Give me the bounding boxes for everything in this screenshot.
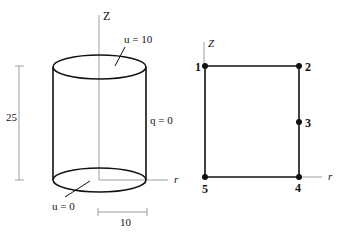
side-bc-label: q = 0 [150,114,173,126]
node-4-label: 4 [295,181,301,195]
node-3 [296,119,302,125]
z-axis-label-left: Z [103,9,110,23]
node-5 [202,174,208,180]
mesh-figure: Z r 1 2 3 4 5 [195,37,333,196]
diagram-canvas: Z r u = 10 q = 0 u = 0 25 10 Z [0,0,340,232]
cylinder-figure: Z r u = 10 q = 0 u = 0 25 10 [6,9,179,228]
bottom-bc-label: u = 0 [52,200,75,212]
cylinder-top-ellipse [53,55,146,79]
node-1-label: 1 [195,60,201,74]
height-dimension-label: 25 [6,111,18,123]
z-axis-label-right: Z [208,37,215,49]
r-axis-label-right: r [328,170,333,182]
node-1 [202,63,208,69]
radius-dimension-label: 10 [120,216,132,228]
top-bc-label: u = 10 [124,33,153,45]
node-5-label: 5 [202,182,208,196]
node-3-label: 3 [305,116,311,130]
node-2 [296,63,302,69]
node-4 [296,174,302,180]
node-2-label: 2 [305,60,311,74]
r-axis-label-left: r [174,173,179,185]
